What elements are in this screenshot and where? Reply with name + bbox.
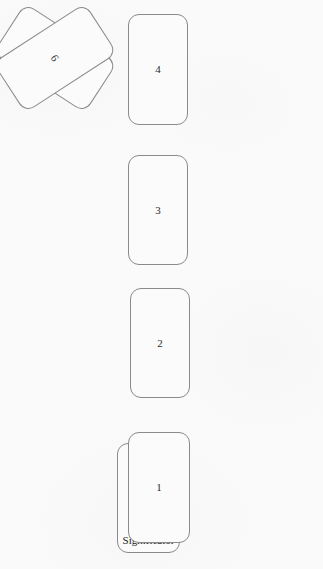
tarot-card-1[interactable]: 1 [128,432,190,543]
tarot-spread-diagram: 4 5 6 3 2 Significator 1 [0,0,323,569]
tarot-card-2[interactable]: 2 [130,288,190,398]
card-3-number: 3 [155,205,161,216]
card-6-number: 6 [49,53,61,64]
tarot-card-3[interactable]: 3 [128,155,188,265]
card-4-number: 4 [155,64,161,75]
card-1-number: 1 [156,482,162,493]
tarot-card-6[interactable]: 6 [0,116,110,232]
tarot-card-4[interactable]: 4 [128,14,188,125]
card-2-number: 2 [157,338,163,349]
